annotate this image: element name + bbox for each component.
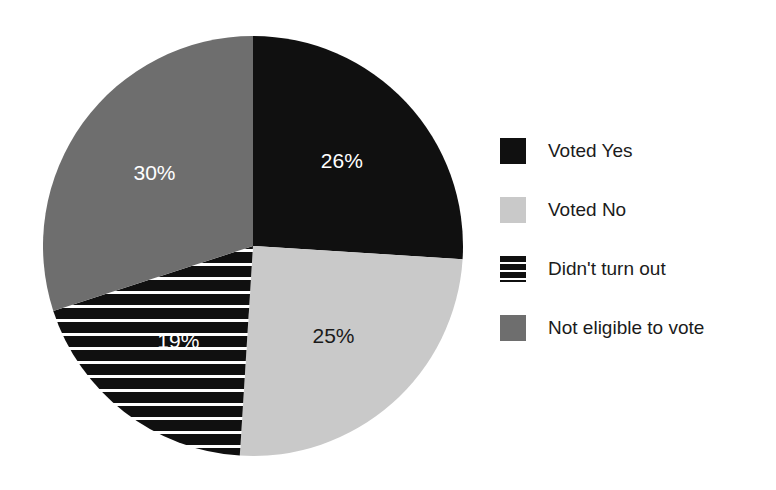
legend-item-voted-yes[interactable]: Voted Yes: [500, 138, 762, 164]
legend-swatch-voted-yes: [500, 138, 526, 164]
legend-label-voted-no: Voted No: [548, 197, 626, 223]
pie-label-not-eligible: 30%: [133, 161, 175, 184]
pie-label-voted-no: 25%: [312, 324, 354, 347]
legend-label-voted-yes: Voted Yes: [548, 138, 633, 164]
pie-chart-figure: 26% 25% 19% 30% Voted Yes Voted No Didn'…: [0, 0, 776, 490]
pie-label-didnt-turn-out: 19%: [157, 329, 199, 352]
chart-legend: Voted Yes Voted No Didn't turn out Not e…: [500, 138, 762, 341]
legend-swatch-not-eligible: [500, 315, 526, 341]
legend-swatch-didnt-turn-out: [500, 256, 526, 282]
legend-swatch-voted-no: [500, 197, 526, 223]
legend-item-not-eligible[interactable]: Not eligible to vote: [500, 315, 762, 341]
legend-item-voted-no[interactable]: Voted No: [500, 197, 762, 223]
legend-item-didnt-turn-out[interactable]: Didn't turn out: [500, 256, 762, 282]
legend-label-didnt-turn-out: Didn't turn out: [548, 256, 666, 282]
pie-slice-voted-yes[interactable]: [253, 36, 463, 259]
pie-slices: [43, 36, 463, 456]
pie-slice-voted-no[interactable]: [240, 246, 463, 456]
legend-label-not-eligible: Not eligible to vote: [548, 315, 704, 341]
pie-label-voted-yes: 26%: [321, 149, 363, 172]
